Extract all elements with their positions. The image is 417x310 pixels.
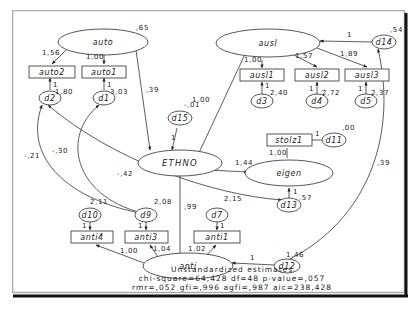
label-cov-d2-d13: -,42 [117, 170, 133, 178]
observed-stolz1[interactable]: stolz1 [267, 134, 312, 146]
latent-eigen[interactable]: eigen [245, 160, 333, 186]
label-d13-eigen: 1 [293, 188, 298, 196]
label-one: 1 [309, 85, 314, 93]
svg-text:d7: d7 [211, 211, 223, 220]
d3-variance: 2,40 [270, 89, 288, 97]
observed-anti1[interactable]: anti1 [194, 231, 240, 243]
label-cov-d14-d12: ,39 [377, 159, 390, 167]
sem-path-diagram: auto ,65 auto2 auto1 1,56 1,00 d2 1 1,80… [12, 10, 412, 300]
svg-text:anti4: anti4 [80, 233, 103, 242]
d2-variance: 1,80 [55, 88, 73, 96]
d12-variance: 1,46 [286, 251, 304, 259]
label-cov-d2-d9: -,21 [24, 152, 40, 160]
svg-text:d9: d9 [140, 211, 151, 220]
label-ethno-eigen: 1,44 [235, 159, 253, 167]
svg-text:ETHNO: ETHNO [162, 158, 198, 168]
svg-text:d15: d15 [171, 114, 188, 123]
svg-text:auto2: auto2 [39, 68, 65, 77]
svg-text:d2: d2 [44, 94, 55, 103]
label-anti-anti3: 1,04 [153, 245, 171, 253]
label-d14-ausl: 1 [347, 31, 352, 39]
error-d10[interactable]: d10 [79, 208, 101, 222]
svg-text:d14: d14 [375, 38, 392, 47]
label-d11-stolz1: 1 [315, 130, 320, 138]
label-auto-auto2: 1,56 [42, 49, 60, 57]
label-d12-anti: 1 [250, 254, 255, 262]
svg-text:d11: d11 [325, 136, 342, 145]
label-d15-ethno: 1 [171, 134, 176, 142]
svg-text:d4: d4 [311, 97, 322, 106]
label-one: 1 [82, 222, 87, 230]
svg-text:d3: d3 [256, 97, 267, 106]
label-cov-d1-d9: -,30 [52, 147, 68, 155]
label-auto-ethno: ,39 [146, 86, 159, 94]
observed-anti3[interactable]: anti3 [125, 231, 168, 243]
observed-anti4[interactable]: anti4 [71, 231, 113, 243]
label-auto-auto1: 1,00 [86, 53, 104, 61]
svg-text:ausl3: ausl3 [355, 71, 379, 80]
label-ethno-ausl: 1,00 [192, 96, 210, 104]
auto-variance: ,65 [136, 24, 149, 32]
error-d15[interactable]: d15 [168, 111, 192, 125]
caption-fit-line1: chi-square=64,428 df=48 p-value=,057 [139, 274, 325, 283]
label-eigen-stolz1: 1,00 [269, 149, 287, 157]
label-ethno-anti: ,99 [184, 203, 197, 211]
latent-ethno[interactable]: ETHNO [138, 150, 222, 176]
error-d14[interactable]: d14 [372, 35, 396, 49]
error-d11[interactable]: d11 [322, 133, 346, 147]
svg-text:d10: d10 [81, 211, 98, 220]
svg-text:ausl: ausl [259, 39, 278, 48]
d13-variance: ,57 [299, 194, 312, 202]
svg-text:d1: d1 [98, 94, 109, 103]
latent-auto[interactable]: auto [58, 29, 148, 55]
caption-title: Unstandardized estimates [171, 265, 293, 274]
svg-text:d13: d13 [280, 201, 297, 210]
d9-variance: 2,08 [154, 198, 172, 206]
d11-variance: ,00 [342, 124, 355, 132]
error-d9[interactable]: d9 [135, 208, 157, 222]
svg-text:auto1: auto1 [91, 68, 117, 77]
svg-text:anti1: anti1 [205, 233, 228, 242]
observed-ausl1[interactable]: ausl1 [240, 69, 284, 81]
label-one: 1 [358, 85, 363, 93]
svg-text:d5: d5 [360, 97, 371, 106]
d14-variance: ,54 [390, 26, 403, 34]
d1-variance: 3,03 [110, 88, 128, 96]
label-anti-anti4: 1,00 [120, 247, 138, 255]
observed-auto1[interactable]: auto1 [82, 66, 126, 78]
label-ausl-ausl2: 1,57 [295, 52, 313, 60]
svg-text:stolz1: stolz1 [275, 136, 302, 145]
observed-ausl2[interactable]: ausl2 [295, 69, 339, 81]
label-ausl-ausl3: 1,89 [340, 50, 358, 58]
error-d7[interactable]: d7 [206, 208, 228, 222]
d5-variance: 2,37 [371, 89, 389, 97]
svg-text:auto: auto [93, 38, 113, 47]
svg-text:eigen: eigen [276, 169, 301, 178]
label-ausl-ausl1: 1,00 [244, 56, 262, 64]
caption-fit-line2: rmr=,052 gfi=,996 agfi=,987 aic=238,428 [132, 283, 332, 292]
error-d13[interactable]: d13 [277, 198, 301, 212]
d4-variance: 2,72 [322, 89, 340, 97]
svg-text:anti3: anti3 [134, 233, 157, 242]
observed-ausl3[interactable]: ausl3 [345, 69, 389, 81]
svg-text:ausl1: ausl1 [250, 71, 274, 80]
label-anti-anti1: 1,02 [188, 245, 206, 253]
d10-variance: 2,11 [90, 198, 108, 206]
diagram-frame: auto ,65 auto2 auto1 1,56 1,00 d2 1 1,80… [12, 10, 412, 300]
svg-text:ausl2: ausl2 [305, 71, 329, 80]
label-one: 1 [138, 222, 143, 230]
d7-variance: 2,15 [224, 195, 242, 203]
observed-auto2[interactable]: auto2 [29, 66, 75, 78]
label-one: 1 [220, 222, 225, 230]
